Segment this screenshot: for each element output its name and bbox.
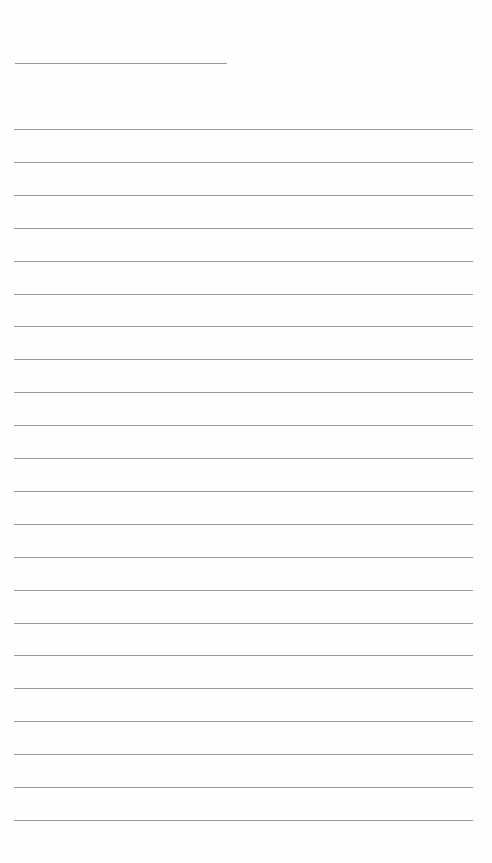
ruled-line bbox=[14, 392, 473, 393]
ruled-line bbox=[14, 359, 473, 360]
ruled-line bbox=[14, 129, 473, 130]
ruled-line bbox=[14, 655, 473, 656]
ruled-line bbox=[14, 491, 473, 492]
ruled-line bbox=[14, 623, 473, 624]
ruled-line bbox=[14, 820, 473, 821]
ruled-line bbox=[14, 557, 473, 558]
ruled-line bbox=[14, 294, 473, 295]
ruled-line bbox=[14, 721, 473, 722]
ruled-line bbox=[14, 590, 473, 591]
ruled-line bbox=[14, 754, 473, 755]
ruled-line bbox=[14, 261, 473, 262]
title-line bbox=[15, 63, 227, 64]
lined-page bbox=[0, 0, 492, 863]
ruled-line bbox=[14, 228, 473, 229]
ruled-line bbox=[14, 458, 473, 459]
ruled-line bbox=[14, 425, 473, 426]
ruled-line bbox=[14, 326, 473, 327]
ruled-line bbox=[14, 162, 473, 163]
ruled-line bbox=[14, 688, 473, 689]
ruled-line bbox=[14, 524, 473, 525]
ruled-line bbox=[14, 195, 473, 196]
ruled-line bbox=[14, 787, 473, 788]
